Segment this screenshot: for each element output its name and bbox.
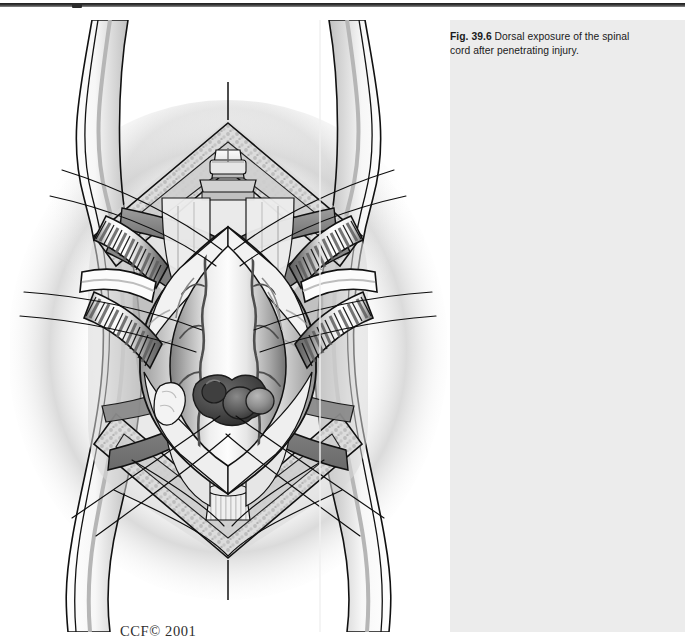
figure-caption-label: Fig. 39.6: [450, 31, 492, 42]
figure-credit: CCF© 2001: [120, 623, 196, 640]
figure-column: CCF© 2001: [10, 20, 447, 632]
spinal-cord-exposure-illustration: [10, 20, 447, 632]
page-top-rule: [0, 3, 685, 7]
figure-caption: Fig. 39.6 Dorsal exposure of the spinal …: [450, 30, 647, 57]
caption-column: Fig. 39.6 Dorsal exposure of the spinal …: [450, 20, 685, 632]
page-top-rule-marker: [72, 3, 82, 8]
figure-page: CCF© 2001 Fig. 39.6 Dorsal exposure of t…: [0, 0, 685, 643]
